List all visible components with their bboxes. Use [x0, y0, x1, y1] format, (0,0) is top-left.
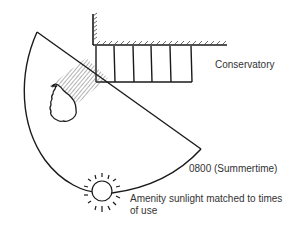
diagram-canvas: Conservatory 0800 (Summertime) Amenity s…: [0, 0, 293, 226]
building-wall: [93, 13, 227, 45]
conservatory-structure: [96, 46, 192, 82]
time-label: 0800 (Summertime): [189, 163, 277, 175]
conservatory-label: Conservatory: [215, 59, 274, 71]
amenity-caption: Amenity sunlight matched to times of use: [130, 193, 290, 217]
